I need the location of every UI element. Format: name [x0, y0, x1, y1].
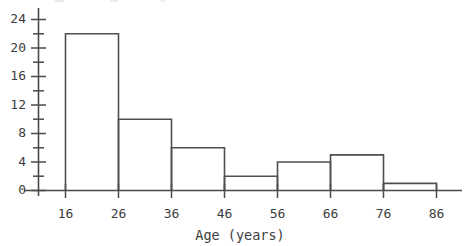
y-tick-label-16: 16 — [10, 68, 26, 83]
x-tick-label-56: 56 — [270, 206, 286, 221]
chart-canvas: 0 4 8 12 16 20 24 16 26 36 46 56 66 — [0, 0, 469, 246]
bar-66-76 — [331, 155, 384, 191]
y-tick-label-8: 8 — [18, 125, 26, 140]
x-tick-label-46: 46 — [217, 206, 233, 221]
x-axis-title: Age (years) — [195, 227, 284, 243]
x-tick-label-76: 76 — [376, 206, 392, 221]
bar-26-36 — [119, 119, 172, 190]
x-tick-label-86: 86 — [429, 206, 445, 221]
y-axis-tick-labels: 0 4 8 12 16 20 24 — [10, 11, 26, 197]
bar-36-46 — [172, 148, 225, 191]
bar-46-56 — [225, 176, 278, 190]
x-tick-label-26: 26 — [111, 206, 127, 221]
histogram-chart: 0 4 8 12 16 20 24 16 26 36 46 56 66 — [0, 0, 469, 246]
x-axis-tick-labels: 16 26 36 46 56 66 76 86 — [58, 206, 445, 221]
x-tick-label-16: 16 — [58, 206, 74, 221]
y-tick-label-24: 24 — [10, 11, 26, 26]
x-tick-label-66: 66 — [323, 206, 339, 221]
y-tick-label-0: 0 — [18, 182, 26, 197]
bar-56-66 — [278, 162, 331, 191]
histogram-bars — [66, 34, 437, 191]
bar-16-26 — [66, 34, 119, 191]
cropped-text-remnant — [55, 0, 166, 2]
y-tick-label-20: 20 — [10, 40, 26, 55]
x-tick-label-36: 36 — [164, 206, 180, 221]
y-tick-label-12: 12 — [10, 97, 26, 112]
y-tick-label-4: 4 — [18, 154, 26, 169]
bar-76-86 — [384, 183, 437, 190]
